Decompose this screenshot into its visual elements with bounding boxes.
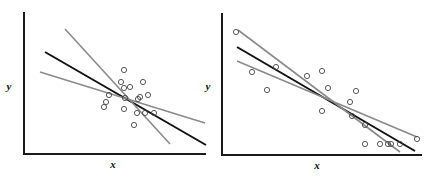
data-point: [414, 136, 419, 141]
data-point: [121, 85, 126, 90]
data-point: [319, 108, 324, 113]
axes-frame: [222, 13, 422, 155]
data-point: [304, 73, 309, 78]
right-scatter-panel: x y: [204, 13, 422, 171]
regression-lines: [40, 29, 206, 145]
data-point: [325, 85, 330, 90]
data-point: [233, 29, 238, 34]
y-axis-label: y: [204, 80, 211, 92]
data-point: [142, 110, 147, 115]
data-point: [377, 141, 382, 146]
data-point: [249, 69, 254, 74]
data-points: [101, 67, 156, 127]
data-point: [347, 99, 352, 104]
y-axis-label: y: [5, 80, 12, 92]
data-point: [118, 79, 123, 84]
x-axis-label: x: [109, 158, 116, 170]
data-point: [101, 104, 106, 109]
fit-gray-steep-line: [65, 29, 170, 144]
data-point: [362, 141, 367, 146]
left-scatter-panel: x y: [5, 12, 206, 170]
data-point: [131, 122, 136, 127]
fit-gray-shallow-line: [237, 61, 417, 137]
data-point: [121, 106, 126, 111]
data-point: [353, 88, 358, 93]
data-point: [127, 84, 132, 89]
data-point: [134, 110, 139, 115]
regression-lines: [237, 30, 417, 152]
fit-gray-steep-line: [238, 30, 400, 152]
data-point: [121, 67, 126, 72]
data-point: [264, 87, 269, 92]
figure: x y x y: [0, 0, 429, 178]
data-point: [145, 92, 150, 97]
data-point: [140, 79, 145, 84]
x-axis-label: x: [313, 159, 320, 171]
data-point: [319, 68, 324, 73]
data-point: [103, 99, 108, 104]
